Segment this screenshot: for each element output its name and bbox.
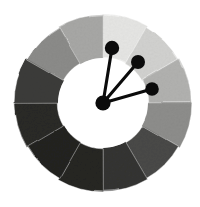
wheel-center-hub <box>95 95 110 110</box>
pointer-middle-dot <box>131 55 145 69</box>
value-wheel-figure <box>0 0 200 207</box>
pointer-lower-dot <box>145 82 159 96</box>
pointer-upper-dot <box>105 41 119 55</box>
value-wheel-canvas <box>0 0 200 207</box>
